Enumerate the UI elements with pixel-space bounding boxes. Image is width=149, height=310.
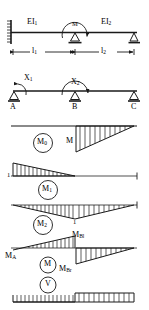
label-m0: M0 xyxy=(37,138,47,147)
label-ei2: EI2 xyxy=(101,18,111,27)
v-outline xyxy=(13,293,134,302)
label-x1: X1 xyxy=(24,74,33,83)
label-node-b: B xyxy=(72,103,77,111)
label-node-c: C xyxy=(131,103,136,111)
support-a-pin-icon xyxy=(8,92,20,102)
support-b-pin-icon xyxy=(69,92,81,102)
label-moment-bl: MBl xyxy=(72,231,84,240)
label-x2: X2 xyxy=(71,78,80,87)
label-m0-value-b: M xyxy=(66,137,73,145)
label-m1: M1 xyxy=(42,185,52,194)
m-final-panel xyxy=(11,236,137,273)
label-m2-unit-b: 1 xyxy=(73,219,76,226)
m2-hatching xyxy=(17,205,129,219)
label-m2: M2 xyxy=(37,220,47,229)
v-hatching xyxy=(17,293,129,302)
figure-canvas xyxy=(0,0,149,310)
label-span-l2: l2 xyxy=(101,47,106,56)
m-right-triangle xyxy=(76,248,134,264)
redundant-x1-arrow xyxy=(18,84,26,95)
support-c-pin-icon xyxy=(128,92,140,102)
label-moment-br: MBr xyxy=(59,265,72,274)
fixed-support-icon xyxy=(7,20,11,44)
label-applied-moment: M xyxy=(72,21,78,28)
v-diagram-panel xyxy=(13,277,134,302)
label-span-l1: l1 xyxy=(32,47,37,56)
label-m-final: M xyxy=(44,260,51,268)
m2-outline xyxy=(13,205,134,219)
label-m1-unit-a: 1 xyxy=(7,172,10,179)
m1-diagram-panel xyxy=(11,163,137,200)
m1-hatching xyxy=(17,164,69,176)
support-c-icon xyxy=(129,33,141,43)
label-v: V xyxy=(45,280,51,288)
m0-diagram-panel xyxy=(11,126,137,153)
m1-triangle xyxy=(13,163,75,176)
beam-analysis-figure: EI1 EI2 M l1 l2 X1 X2 A B C M0 M M1 1 M2… xyxy=(0,0,149,310)
label-node-a: A xyxy=(10,103,16,111)
support-b-icon xyxy=(69,33,82,43)
label-ei1: EI1 xyxy=(27,18,37,27)
label-moment-a: MA xyxy=(5,252,16,261)
